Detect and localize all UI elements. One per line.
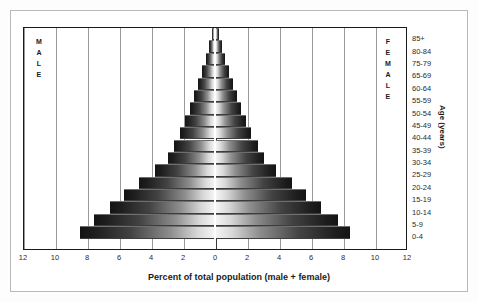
x-tick-label: 12 <box>13 253 33 262</box>
female-letter: E <box>386 47 391 58</box>
age-group-label: 25-29 <box>412 169 431 181</box>
age-group-label: 10-14 <box>412 207 431 219</box>
age-group-label: 35-39 <box>412 145 431 157</box>
plot-area <box>23 27 407 250</box>
male-letter: M <box>36 36 42 47</box>
bar-female <box>216 102 241 114</box>
bar-female <box>216 201 321 213</box>
bar-male <box>94 214 214 226</box>
bar-male <box>110 201 214 213</box>
bar-male <box>174 140 214 152</box>
bar-female <box>216 28 219 40</box>
bar-male <box>155 164 214 176</box>
x-tick-label: 4 <box>141 253 161 262</box>
age-group-label: 80-84 <box>412 46 431 58</box>
bar-row <box>24 65 406 77</box>
female-letter: F <box>386 36 390 47</box>
female-letter: L <box>386 80 390 91</box>
male-letter: L <box>37 58 41 69</box>
bar-female <box>216 177 292 189</box>
female-letter: E <box>386 91 391 102</box>
bar-male <box>209 40 214 52</box>
x-tick-label: 10 <box>45 253 65 262</box>
male-letter: A <box>36 47 41 58</box>
bar-row <box>24 28 406 40</box>
bar-male <box>168 152 214 164</box>
age-group-label: 20-24 <box>412 182 431 194</box>
bar-row <box>24 140 406 152</box>
bar-female <box>216 65 229 77</box>
male-letter: E <box>37 69 42 80</box>
bar-female <box>216 214 338 226</box>
bar-female <box>216 152 264 164</box>
x-axis-title: Percent of total population (male + fema… <box>0 272 478 282</box>
age-group-label: 40-44 <box>412 132 431 144</box>
bar-male <box>190 102 214 114</box>
age-group-label: 50-54 <box>412 108 431 120</box>
bar-row <box>24 189 406 201</box>
x-tick-label: 2 <box>173 253 193 262</box>
x-tick-label: 8 <box>77 253 97 262</box>
bar-row <box>24 90 406 102</box>
age-group-label: 45-49 <box>412 120 431 132</box>
age-group-label: 30-34 <box>412 157 431 169</box>
bar-male <box>206 53 214 65</box>
bar-male <box>180 127 214 139</box>
bar-male <box>212 28 214 40</box>
bar-male <box>194 90 214 102</box>
age-group-label: 60-64 <box>412 83 431 95</box>
bar-male <box>139 177 214 189</box>
bar-male <box>202 65 214 77</box>
male-legend-label: MALE <box>36 36 42 80</box>
x-tick-label: 2 <box>237 253 257 262</box>
bar-female <box>216 90 237 102</box>
bar-row <box>24 152 406 164</box>
bar-row <box>24 115 406 127</box>
bar-female <box>216 127 251 139</box>
y-axis-title: Age (years) <box>438 105 447 149</box>
female-legend-label: FEMALE <box>385 36 391 102</box>
bar-row <box>24 102 406 114</box>
bar-row <box>24 164 406 176</box>
bar-male <box>185 115 214 127</box>
x-tick-label: 6 <box>109 253 129 262</box>
age-group-label: 65-69 <box>412 70 431 82</box>
bar-row <box>24 177 406 189</box>
bar-female <box>216 226 350 238</box>
female-letter: M <box>385 58 391 69</box>
population-pyramid-figure: MALE FEMALE 12108642024681012 Percent of… <box>0 0 478 302</box>
age-group-label: 75-79 <box>412 58 431 70</box>
x-tick-label: 10 <box>365 253 385 262</box>
bar-row <box>24 53 406 65</box>
x-tick-label: 4 <box>269 253 289 262</box>
bar-male <box>198 78 214 90</box>
x-tick-label: 0 <box>205 253 225 262</box>
female-letter: A <box>385 69 390 80</box>
bar-female <box>216 189 306 201</box>
age-group-label: 85+ <box>412 33 425 45</box>
bar-female <box>216 78 233 90</box>
bar-row <box>24 40 406 52</box>
x-tick-label: 8 <box>333 253 353 262</box>
bar-row <box>24 78 406 90</box>
age-group-label: 0-4 <box>412 231 423 243</box>
bar-male <box>124 189 214 201</box>
bar-row <box>24 201 406 213</box>
bar-male <box>80 226 214 238</box>
x-tick-label: 12 <box>397 253 417 262</box>
bar-female <box>216 53 225 65</box>
bar-female <box>216 40 222 52</box>
bar-row <box>24 226 406 238</box>
bar-female <box>216 140 258 152</box>
bar-rows <box>24 28 406 249</box>
age-group-label: 55-59 <box>412 95 431 107</box>
bar-female <box>216 115 246 127</box>
age-group-label: 5-9 <box>412 219 423 231</box>
age-group-label: 15-19 <box>412 194 431 206</box>
bar-female <box>216 164 276 176</box>
bar-row <box>24 214 406 226</box>
x-tick-label: 6 <box>301 253 321 262</box>
bar-row <box>24 127 406 139</box>
